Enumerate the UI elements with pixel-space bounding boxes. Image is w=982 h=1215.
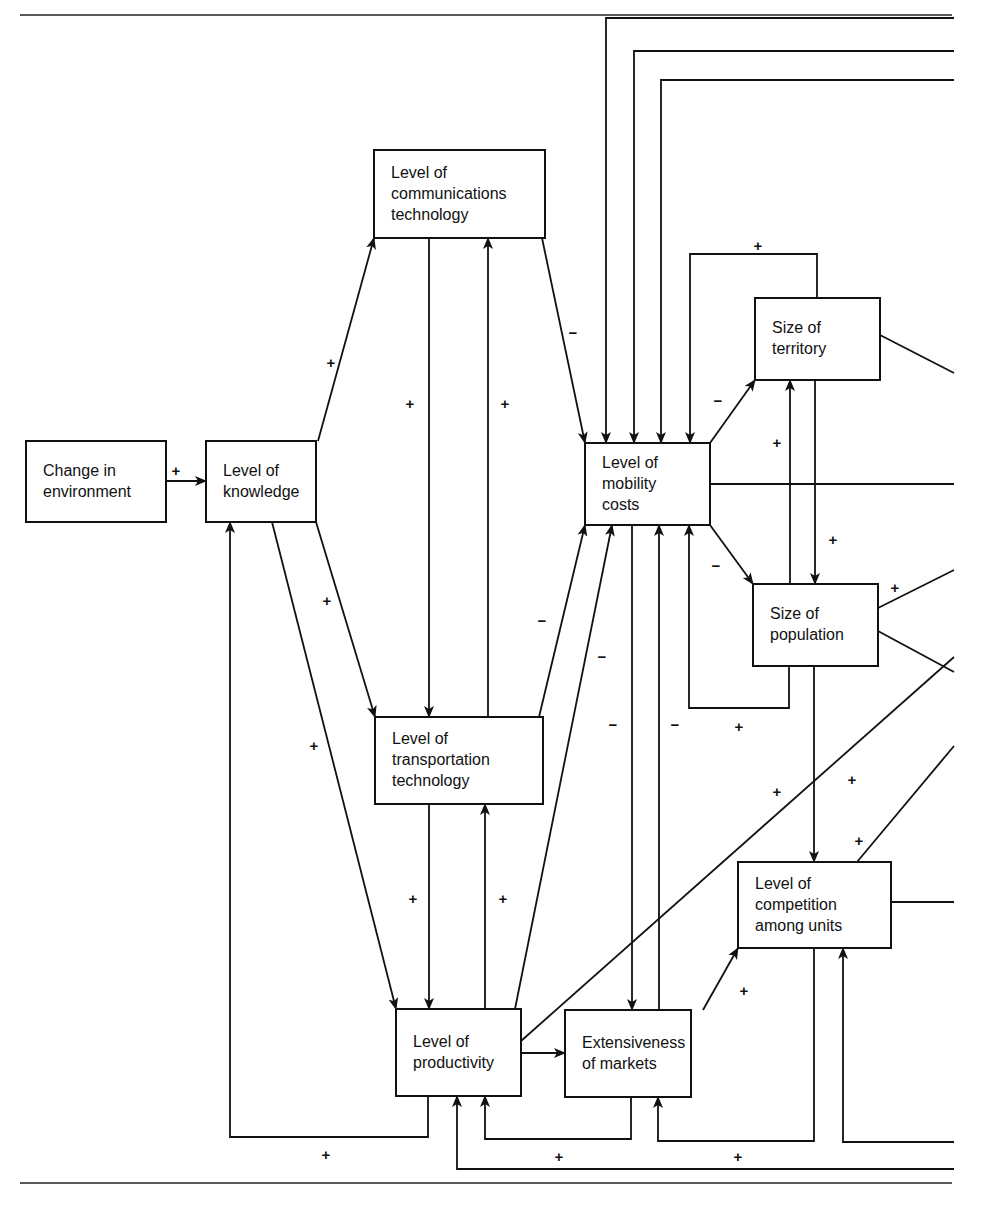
- plus-sign-label: +: [406, 395, 415, 412]
- plus-sign-label: +: [754, 237, 763, 254]
- edge-offpage-to-productivity-arrow: [457, 1096, 954, 1169]
- plus-sign-label: +: [499, 890, 508, 907]
- node-population: Size ofpopulation: [753, 584, 878, 666]
- causal-loop-diagram: ++++++−−−++−−−−++++++++++++ Change inenv…: [0, 0, 982, 1215]
- plus-sign-label: +: [773, 783, 782, 800]
- plus-sign-label: +: [855, 832, 864, 849]
- edge-territory-to-offpage: [880, 335, 954, 373]
- node-box: [755, 298, 880, 380]
- node-knowledge: Level ofknowledge: [206, 441, 316, 522]
- node-competition: Level ofcompetitionamong units: [738, 862, 891, 948]
- nodes-layer: Change inenvironmentLevel ofknowledgeLev…: [26, 150, 891, 1097]
- plus-sign-label: +: [740, 982, 749, 999]
- plus-sign-label: +: [773, 434, 782, 451]
- edge-markets-to-productivity-arrow: [485, 1096, 631, 1139]
- edge-mobility-to-territory-arrow: [710, 380, 755, 443]
- node-mobility: Level ofmobilitycosts: [585, 443, 710, 525]
- edge-offpage-to-mobility-arrow: [634, 51, 954, 443]
- edge-population-to-offpage: [878, 570, 954, 608]
- edge-population-to-offpage: [878, 631, 954, 672]
- plus-sign-label: +: [734, 1148, 743, 1165]
- node-box: [565, 1010, 691, 1097]
- plus-sign-label: +: [501, 395, 510, 412]
- edge-productivity-to-offpage: [521, 657, 954, 1041]
- node-box: [26, 441, 166, 522]
- plus-sign-label: +: [848, 771, 857, 788]
- edge-offpage-to-mobility-arrow: [661, 80, 954, 443]
- minus-sign-label: −: [569, 324, 578, 341]
- plus-sign-label: +: [310, 737, 319, 754]
- node-communications: Level ofcommunicationstechnology: [374, 150, 545, 238]
- minus-sign-label: −: [712, 557, 721, 574]
- plus-sign-label: +: [891, 579, 900, 596]
- edge-knowledge-to-transportation-arrow: [316, 522, 375, 717]
- edge-offpage-to-competition-arrow: [843, 948, 954, 1142]
- node-box: [753, 584, 878, 666]
- node-markets: Extensivenessof markets: [565, 1010, 691, 1097]
- minus-sign-label: −: [714, 392, 723, 409]
- node-transportation: Level oftransportationtechnology: [375, 717, 543, 804]
- minus-sign-label: −: [671, 716, 680, 733]
- node-box: [396, 1009, 521, 1096]
- edge-competition-to-offpage: [857, 746, 954, 862]
- edge-mobility-to-population-arrow: [710, 525, 753, 584]
- minus-sign-label: −: [609, 716, 618, 733]
- plus-sign-label: +: [323, 592, 332, 609]
- plus-sign-label: +: [735, 718, 744, 735]
- minus-sign-label: −: [538, 612, 547, 629]
- edge-communications-to-mobility-arrow: [542, 238, 585, 443]
- node-productivity: Level ofproductivity: [396, 1009, 521, 1096]
- node-territory: Size ofterritory: [755, 298, 880, 380]
- plus-sign-label: +: [829, 531, 838, 548]
- plus-sign-label: +: [322, 1146, 331, 1163]
- plus-sign-label: +: [555, 1148, 564, 1165]
- plus-sign-label: +: [327, 354, 336, 371]
- node-environment: Change inenvironment: [26, 441, 166, 522]
- minus-sign-label: −: [598, 648, 607, 665]
- plus-sign-label: +: [409, 890, 418, 907]
- node-box: [206, 441, 316, 522]
- edge-markets-to-competition-arrow: [703, 948, 738, 1010]
- plus-sign-label: +: [172, 462, 181, 479]
- edge-knowledge-to-communications-arrow: [318, 238, 374, 441]
